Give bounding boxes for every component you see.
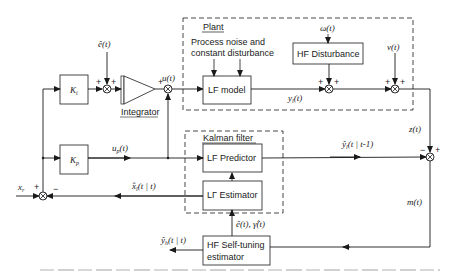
- svg-text:−: −: [420, 145, 425, 155]
- e-hat-label: ê(t): [98, 39, 111, 49]
- svg-text:+: +: [318, 77, 323, 87]
- nu-label: v(t): [387, 42, 400, 52]
- svg-text:+: +: [111, 77, 116, 87]
- omega-label: ω(t): [320, 23, 335, 33]
- svg-text:LF model: LF model: [208, 85, 246, 95]
- yh-hat-label: ŷh(t | t): [160, 235, 186, 246]
- up-label: up(t): [112, 143, 128, 154]
- svg-text:constant disturbance: constant disturbance: [191, 48, 274, 58]
- yl-hat-label: ŷl(t | t-1): [341, 139, 373, 150]
- svg-text:+: +: [334, 77, 339, 87]
- svg-text:HF Disturbance: HF Disturbance: [297, 49, 360, 59]
- xr-label: xr: [17, 182, 25, 193]
- svg-text:estimator: estimator: [207, 252, 244, 262]
- svg-text:LF Predictor: LF Predictor: [207, 153, 256, 163]
- process-noise-label: Process noise and: [191, 37, 265, 47]
- svg-text:−: −: [53, 184, 58, 194]
- integrator-label: Integrator: [121, 107, 160, 117]
- block-diagram: Plant Kalman filter Ki Kp + + ê(t) Integ…: [0, 0, 458, 278]
- integrator-block: [121, 76, 155, 104]
- svg-text:+: +: [435, 145, 440, 155]
- illegible-caption: [40, 266, 440, 274]
- kalman-filter-label: Kalman filter: [203, 133, 253, 143]
- u-label: u(t): [162, 73, 175, 83]
- e-gamma-hat-label: ê(t), γ̂(t): [236, 219, 265, 229]
- yl-label: yl(t): [287, 93, 302, 104]
- svg-text:+: +: [400, 77, 405, 87]
- svg-text:+: +: [385, 77, 390, 87]
- svg-text:+: +: [34, 182, 39, 192]
- svg-text:LΓ Estimator: LΓ Estimator: [207, 190, 257, 200]
- z-label: z(t): [408, 124, 421, 134]
- svg-text:HF Self-tuning: HF Self-tuning: [207, 240, 265, 250]
- m-label: m(t): [407, 197, 422, 207]
- xl-hat-label: x̂l(t | t): [131, 181, 156, 192]
- svg-text:+: +: [96, 77, 101, 87]
- plant-label: Plant: [203, 22, 224, 32]
